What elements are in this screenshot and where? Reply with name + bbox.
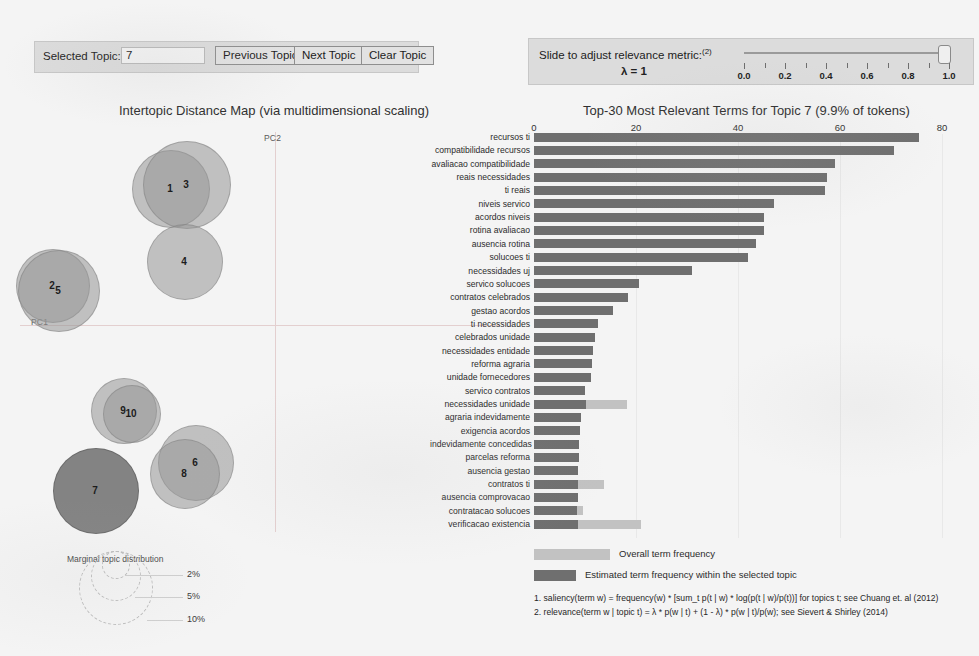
bar-topic-frequency[interactable] [534,386,585,395]
term-label[interactable]: necessidades entidade [430,346,530,356]
bar-topic-frequency[interactable] [534,333,595,342]
term-label[interactable]: rotina avaliacao [430,225,530,235]
bar-topic-frequency[interactable] [534,133,919,142]
gridline [942,134,943,538]
bar-topic-frequency[interactable] [534,226,764,235]
bar-topic-frequency[interactable] [534,480,578,489]
term-label[interactable]: contratacao solucoes [430,506,530,516]
term-label[interactable]: agraria indevidamente [430,412,530,422]
bar-topic-frequency[interactable] [534,319,598,328]
term-label[interactable]: reais necessidades [430,172,530,182]
bar-topic-frequency[interactable] [534,520,578,529]
term-label[interactable]: parcelas reforma [430,452,530,462]
legend-label-topic: Estimated term frequency within the sele… [585,569,797,580]
bar-topic-frequency[interactable] [534,506,577,515]
bar-topic-frequency[interactable] [534,373,591,382]
term-label[interactable]: ausencia gestao [430,466,530,476]
bar-topic-frequency[interactable] [534,199,774,208]
term-label[interactable]: ti necessidades [430,319,530,329]
term-label[interactable]: reforma agraria [430,359,530,369]
bar-topic-frequency[interactable] [534,279,639,288]
legend-label-overall: Overall term frequency [619,548,715,559]
bar-topic-frequency[interactable] [534,493,578,502]
bar-topic-frequency[interactable] [534,213,764,222]
x-axis-tick-label: 40 [733,122,744,133]
bar-topic-frequency[interactable] [534,359,592,368]
bar-topic-frequency[interactable] [534,293,628,302]
term-label[interactable]: acordos niveis [430,212,530,222]
x-axis-tick-label: 20 [631,122,642,133]
bar-topic-frequency[interactable] [534,453,579,462]
bar-topic-frequency[interactable] [534,466,578,475]
term-label[interactable]: indevidamente concedidas [430,439,530,449]
term-label[interactable]: ausencia rotina [430,239,530,249]
term-label[interactable]: avaliacao compatibilidade [430,159,530,169]
term-label[interactable]: compatibilidade recursos [430,145,530,155]
term-label[interactable]: unidade fornecedores [430,372,530,382]
bar-topic-frequency[interactable] [534,146,894,155]
x-axis-tick-label: 0 [531,122,536,133]
bar-topic-frequency[interactable] [534,173,827,182]
x-axis-tick-label: 60 [835,122,846,133]
term-label[interactable]: niveis servico [430,199,530,209]
bar-topic-frequency[interactable] [534,159,835,168]
term-label[interactable]: celebrados unidade [430,332,530,342]
footnote-relevance: 2. relevance(term w | topic t) = λ * p(w… [534,607,888,617]
x-axis-tick-label: 80 [937,122,948,133]
bar-topic-frequency[interactable] [534,253,748,262]
bar-topic-frequency[interactable] [534,266,692,275]
bar-topic-frequency[interactable] [534,346,593,355]
bar-topic-frequency[interactable] [534,186,825,195]
bar-topic-frequency[interactable] [534,413,581,422]
bar-topic-frequency[interactable] [534,400,586,409]
term-label[interactable]: solucoes ti [430,252,530,262]
bar-topic-frequency[interactable] [534,440,579,449]
term-label[interactable]: necessidades uj [430,266,530,276]
term-label[interactable]: recursos ti [430,132,530,142]
bar-topic-frequency[interactable] [534,426,580,435]
term-label[interactable]: servico contratos [430,386,530,396]
term-label[interactable]: contratos celebrados [430,292,530,302]
term-label[interactable]: necessidades unidade [430,399,530,409]
legend-swatch-overall [534,549,610,560]
term-label[interactable]: contratos ti [430,479,530,489]
gridline [840,134,841,538]
term-label[interactable]: gestao acordos [430,306,530,316]
legend-swatch-topic [534,570,576,581]
top-terms-bar-chart: 020406080 recursos ticompatibilidade rec… [0,0,979,656]
term-label[interactable]: ausencia comprovacao [430,492,530,502]
term-label[interactable]: servico solucoes [430,279,530,289]
footnote-saliency: 1. saliency(term w) = frequency(w) * [su… [534,593,938,603]
bar-topic-frequency[interactable] [534,239,756,248]
term-label[interactable]: ti reais [430,185,530,195]
term-label[interactable]: exigencia acordos [430,426,530,436]
bar-topic-frequency[interactable] [534,306,613,315]
term-label[interactable]: verificacao existencia [430,519,530,529]
